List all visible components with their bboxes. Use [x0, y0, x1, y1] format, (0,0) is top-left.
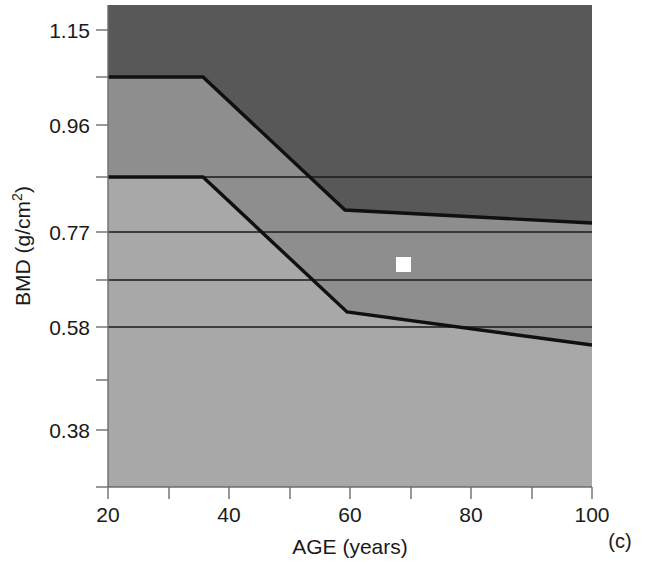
x-axis-tick-labels: 20 40 60 80 100	[96, 503, 609, 526]
x-tick-label-100: 100	[574, 503, 609, 526]
y-tick-label-1.15: 1.15	[49, 19, 90, 42]
y-axis-ticks	[96, 30, 108, 487]
panel-label: (c)	[608, 530, 631, 552]
y-axis-title-close: )	[11, 186, 34, 193]
y-tick-label-0.58: 0.58	[49, 316, 90, 339]
x-axis-title: AGE (years)	[292, 535, 408, 558]
y-tick-label-0.38: 0.38	[49, 419, 90, 442]
y-axis-title: BMD (g/cm2)	[9, 186, 34, 306]
y-tick-label-0.77: 0.77	[49, 221, 90, 244]
patient-measurement-marker[interactable]	[396, 257, 411, 272]
bmd-age-figure: 1.15 0.96 0.77 0.58 0.38 20 40 60 80 100…	[0, 0, 650, 566]
y-axis-tick-labels: 1.15 0.96 0.77 0.58 0.38	[49, 19, 90, 442]
x-tick-label-80: 80	[459, 503, 482, 526]
x-tick-label-20: 20	[96, 503, 119, 526]
x-axis-ticks	[108, 487, 592, 499]
y-axis-title-superscript: 2	[9, 193, 25, 201]
svg-text:BMD (g/cm2): BMD (g/cm2)	[9, 186, 34, 306]
y-tick-label-0.96: 0.96	[49, 114, 90, 137]
x-tick-label-40: 40	[217, 503, 240, 526]
data-points	[396, 257, 411, 272]
chart-canvas: 1.15 0.96 0.77 0.58 0.38 20 40 60 80 100…	[0, 0, 650, 566]
y-axis-title-main: BMD (g/cm	[11, 201, 34, 306]
x-tick-label-60: 60	[338, 503, 361, 526]
